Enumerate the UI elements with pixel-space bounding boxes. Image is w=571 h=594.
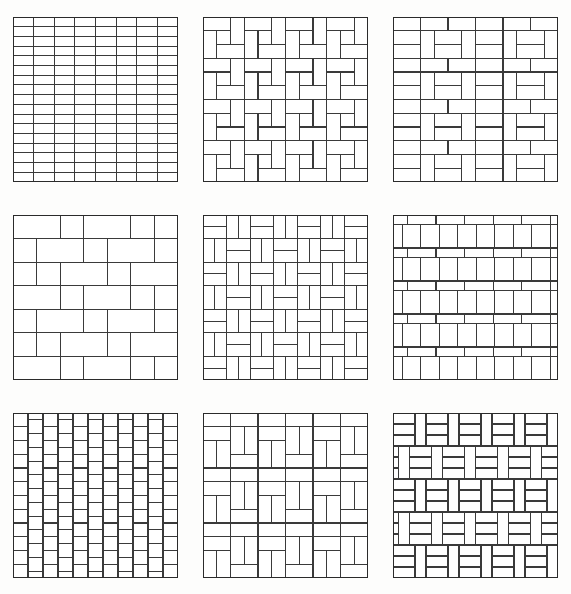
pattern-figure-2 — [203, 17, 368, 182]
pattern-figure-8 — [203, 413, 368, 578]
pattern-figure-3 — [393, 17, 558, 182]
pattern-figure-4 — [13, 215, 178, 380]
pattern-figure-7 — [13, 413, 178, 578]
pattern-figure-1 — [13, 17, 178, 182]
panel-cell-3: Banded basketweave — [381, 0, 571, 198]
panel-cell-2: Pinwheel basketweave — [190, 0, 380, 198]
pattern-figure-5 — [203, 215, 368, 380]
panel-cell-4: Herringbone — [0, 198, 190, 396]
panel-cell-7: Vertical running bond — [0, 396, 190, 594]
panel-cell-5: Single basketweave — [190, 198, 380, 396]
pattern-figure-9 — [393, 413, 558, 578]
panel-cell-8: Half-drop basketweave — [190, 396, 380, 594]
panel-cell-1: Stack bond, vertical units — [0, 0, 190, 198]
pattern-plate: Stack bond, vertical units Pinwheel bask… — [0, 0, 571, 594]
panel-cell-9: Offset double basketweave — [381, 396, 571, 594]
panel-cell-6: Stretcher and soldier course bands — [381, 198, 571, 396]
pattern-figure-6 — [393, 215, 558, 380]
